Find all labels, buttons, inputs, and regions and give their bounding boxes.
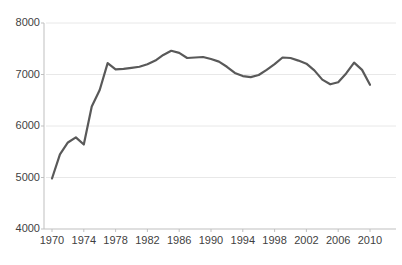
x-axis-label-2010: 2010: [350, 234, 390, 246]
y-axis-label-8000: 8000: [2, 16, 40, 28]
gridlines: [46, 23, 396, 178]
y-axis-label-6000: 6000: [2, 119, 40, 131]
y-axis-label-4000: 4000: [2, 222, 40, 234]
data-series: [52, 51, 370, 179]
y-axis-label-7000: 7000: [2, 68, 40, 80]
chart-axes: [41, 23, 396, 232]
data-line-series-1: [52, 51, 370, 179]
chart-plot-area: [0, 0, 402, 265]
y-axis-label-5000: 5000: [2, 171, 40, 183]
line-chart: 80007000600050004000 1970197419781982198…: [0, 0, 402, 265]
